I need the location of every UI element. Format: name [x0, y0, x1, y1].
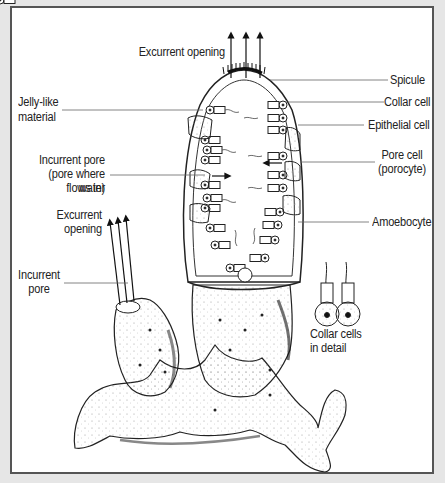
label-excurrent-opening-left2: opening — [39, 222, 102, 236]
label-excurrent-opening-left: Excurrent — [39, 208, 102, 222]
label-spicule: Spicule — [390, 73, 425, 87]
label-collar-cell: Collar cell — [384, 95, 430, 109]
collar-cells-detail — [315, 262, 360, 326]
label-porocyte: (porocyte) — [376, 162, 429, 176]
sponge-illustration — [0, 0, 445, 483]
sponge-chamber-cross-section — [0, 0, 303, 290]
label-jelly-like: Jelly-like — [18, 95, 58, 109]
label-collar-cells-detail2: in detail — [310, 341, 346, 355]
label-incurrent-pore-desc2: flows in) — [21, 181, 105, 195]
excurrent-flow-arrows-small — [110, 218, 134, 305]
label-collar-cells-detail: Collar cells — [310, 327, 362, 341]
label-amoebocyte: Amoebocyte — [372, 215, 431, 229]
sponge-body — [74, 285, 346, 472]
label-incurrent-pore: Incurrent pore — [21, 153, 105, 167]
label-excurrent-opening: Excurrent opening — [124, 45, 225, 59]
label-epithelial-cell: Epithelial cell — [368, 118, 430, 132]
label-pore-cell: Pore cell — [376, 148, 429, 162]
label-material: material — [18, 110, 56, 124]
label-incurrent-pore-left: Incurrent — [17, 268, 61, 282]
label-incurrent-pore-left2: pore — [17, 282, 61, 296]
